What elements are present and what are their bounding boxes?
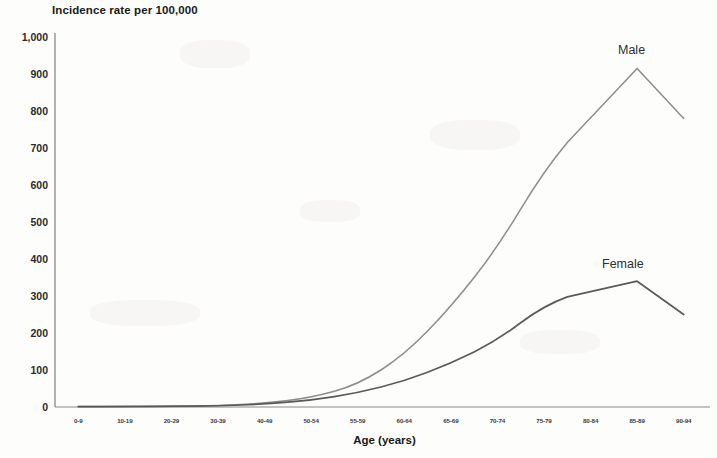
- series-line-male: [78, 68, 683, 406]
- chart-container: Incidence rate per 100,000 0100200300400…: [0, 0, 717, 458]
- x-axis-title: Age (years): [0, 434, 717, 446]
- x-axis-tick-label: 50-54: [303, 417, 318, 424]
- x-axis-tick-label: 70-74: [490, 417, 505, 424]
- x-axis-tick-label: 10-19: [117, 417, 132, 424]
- series-label-female: Female: [602, 257, 644, 271]
- x-axis-tick-label: 40-49: [257, 417, 272, 424]
- x-axis-tick-label: 65-69: [443, 417, 458, 424]
- x-axis-tick-label: 0-9: [74, 417, 83, 424]
- series-line-female: [78, 281, 683, 406]
- series-label-male: Male: [618, 43, 645, 57]
- x-axis-tick-label: 75-79: [536, 417, 551, 424]
- chart-axes: [55, 33, 710, 407]
- chart-series-lines: [78, 68, 683, 406]
- x-axis-tick-label: 30-39: [210, 417, 225, 424]
- x-axis-tick-label: 20-29: [164, 417, 179, 424]
- x-axis-tick-label: 80-84: [583, 417, 598, 424]
- x-axis-tick-label: 90-94: [676, 417, 691, 424]
- chart-plot-area: [0, 0, 717, 458]
- x-axis-tick-label: 85-89: [629, 417, 644, 424]
- x-axis-tick-label: 60-64: [397, 417, 412, 424]
- x-axis-tick-label: 55-59: [350, 417, 365, 424]
